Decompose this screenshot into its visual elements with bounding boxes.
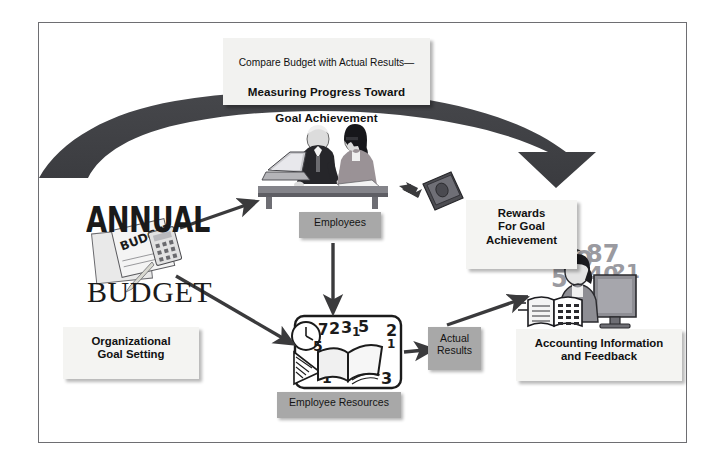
budget-wordmark: BUDGET (87, 275, 212, 309)
svg-text:3: 3 (341, 318, 352, 337)
svg-text:7: 7 (318, 321, 328, 339)
diagram-title: Compare Budget with Actual Results— Meas… (223, 38, 430, 105)
title-line-2: Measuring Progress Toward (223, 85, 430, 99)
arrow-actual-to-accounting (447, 300, 519, 325)
node-accounting-information-and-feedback: Accounting Information and Feedback (516, 329, 682, 381)
svg-text:1: 1 (387, 337, 395, 351)
open-book-with-clock-icon: 7 2 3 1 5 2 1 5 1 3 (292, 316, 401, 388)
node-actual-results: Actual Results (428, 327, 481, 370)
cash-money-icon (399, 172, 463, 210)
svg-text:2: 2 (329, 319, 340, 338)
svg-text:3: 3 (381, 369, 392, 388)
arrow-resources-to-actual (404, 350, 425, 352)
node-rewards-for-goal-achievement: Rewards For Goal Achievement (466, 200, 577, 269)
diagram-canvas: BUDGET (0, 0, 723, 467)
title-line-3: Goal Achievement (223, 111, 430, 125)
title-line-1: Compare Budget with Actual Results— (223, 57, 430, 69)
node-employees: Employees (299, 212, 381, 238)
svg-text:5: 5 (358, 317, 369, 336)
node-organizational-goal-setting: Organizational Goal Setting (63, 327, 199, 379)
annual-wordmark: ANNUAL (86, 200, 210, 240)
node-employee-resources: Employee Resources (277, 392, 401, 418)
